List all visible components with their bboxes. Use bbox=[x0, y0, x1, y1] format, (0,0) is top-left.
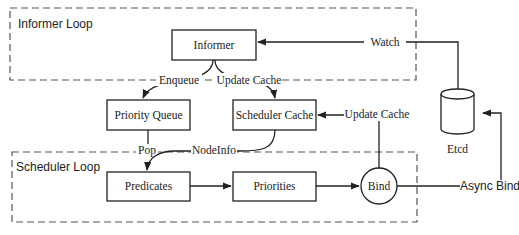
priorities-node: Priorities bbox=[233, 172, 316, 201]
etcd-node: Etcd bbox=[441, 89, 474, 155]
priority-queue-label: Priority Queue bbox=[114, 109, 182, 122]
update-cache-right-label: Update Cache bbox=[345, 108, 410, 121]
scheduler-architecture-diagram: Informer Loop Scheduler Loop Watch Infor… bbox=[0, 0, 519, 235]
bind-label: Bind bbox=[368, 180, 391, 192]
update-cache-right-edge: Update Cache bbox=[318, 108, 410, 169]
update-cache-top-edge: Update Cache bbox=[215, 60, 282, 98]
bind-node: Bind bbox=[361, 168, 397, 204]
pop-label: Pop bbox=[138, 144, 156, 157]
scheduler-cache-label: Scheduler Cache bbox=[236, 109, 314, 121]
informer-loop-label: Informer Loop bbox=[18, 17, 93, 31]
enqueue-label: Enqueue bbox=[159, 74, 199, 87]
update-cache-top-label: Update Cache bbox=[217, 74, 282, 87]
async-bind-label: Async Bind bbox=[460, 179, 519, 193]
watch-edge: Watch bbox=[258, 35, 458, 89]
priorities-label: Priorities bbox=[253, 180, 296, 192]
predicates-node: Predicates bbox=[107, 172, 190, 201]
watch-label: Watch bbox=[370, 36, 399, 48]
etcd-label: Etcd bbox=[447, 143, 468, 155]
pop-edge: Pop bbox=[136, 130, 158, 157]
enqueue-edge: Enqueue bbox=[143, 60, 213, 98]
informer-label: Informer bbox=[194, 39, 235, 51]
informer-node: Informer bbox=[172, 30, 256, 60]
predicates-label: Predicates bbox=[125, 180, 173, 192]
nodeinfo-edge: NodeInfo bbox=[147, 130, 275, 170]
scheduler-loop-group: Scheduler Loop bbox=[12, 152, 417, 222]
priority-queue-node: Priority Queue bbox=[107, 100, 190, 130]
scheduler-cache-node: Scheduler Cache bbox=[233, 100, 316, 130]
nodeinfo-label: NodeInfo bbox=[192, 144, 236, 156]
scheduler-loop-label: Scheduler Loop bbox=[16, 160, 100, 174]
